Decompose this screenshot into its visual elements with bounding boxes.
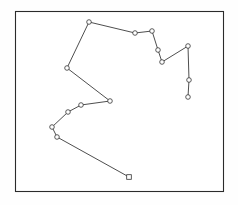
track-node-marker xyxy=(156,48,161,53)
plot-border xyxy=(16,12,224,192)
track-node-marker xyxy=(150,29,155,34)
track-node-marker xyxy=(66,110,71,115)
track-node-marker xyxy=(186,95,191,100)
track-node-marker xyxy=(55,135,60,140)
track-node-marker xyxy=(187,78,192,83)
track-node-marker xyxy=(50,125,55,130)
track-node-marker xyxy=(108,99,113,104)
track-node-marker xyxy=(160,60,165,65)
track-node-marker xyxy=(186,44,191,49)
track-node-marker xyxy=(133,31,138,36)
track-endpoint-marker xyxy=(127,175,132,180)
figure-container xyxy=(0,0,238,205)
track-node-marker xyxy=(79,103,84,108)
track-node-marker xyxy=(87,20,92,25)
track-node-marker xyxy=(65,66,70,71)
path-plot-svg xyxy=(0,0,238,205)
